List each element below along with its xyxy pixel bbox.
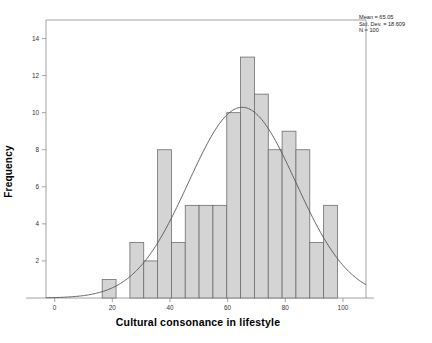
histogram-bar xyxy=(268,150,282,298)
x-axis-tick-label: 80 xyxy=(282,304,290,311)
histogram-bar xyxy=(227,113,241,298)
histogram-bar xyxy=(171,242,185,298)
x-axis-tick-label: 0 xyxy=(53,304,57,311)
histogram-bar xyxy=(158,150,172,298)
histogram-bar xyxy=(282,131,296,298)
x-axis-tick-label: 20 xyxy=(109,304,117,311)
y-axis-tick-label: 2 xyxy=(35,257,39,264)
histogram-bar xyxy=(199,205,213,298)
x-axis-tick-label: 100 xyxy=(338,304,349,311)
histogram-bar xyxy=(296,150,310,298)
x-axis-tick-label: 40 xyxy=(166,304,174,311)
y-axis-tick-label: 14 xyxy=(32,35,40,42)
histogram-figure: Frequency Cultural consonance in lifesty… xyxy=(0,0,432,343)
histogram-bar xyxy=(144,261,158,298)
x-axis-tick-label: 60 xyxy=(224,304,232,311)
histogram-bar xyxy=(324,205,338,298)
histogram-bar xyxy=(241,57,255,298)
y-axis-tick-label: 4 xyxy=(35,220,39,227)
bar-group xyxy=(102,57,337,298)
y-axis-tick-label: 6 xyxy=(35,183,39,190)
y-axis-tick-label: 10 xyxy=(32,109,40,116)
plot-canvas: 2468101214020406080100 xyxy=(0,0,432,343)
histogram-bar xyxy=(185,205,199,298)
y-axis-tick-label: 12 xyxy=(32,72,40,79)
y-axis-tick-label: 8 xyxy=(35,146,39,153)
histogram-bar xyxy=(310,242,324,298)
histogram-bar xyxy=(213,205,227,298)
